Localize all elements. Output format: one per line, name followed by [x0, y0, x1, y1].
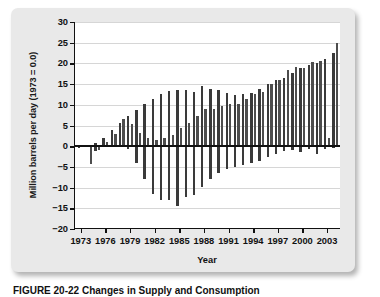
y-axis-tick-label: 0 [63, 141, 68, 151]
x-axis-tick [130, 228, 131, 233]
x-axis-tick [179, 228, 180, 233]
bar [90, 146, 92, 163]
x-axis-tick-label: 1988 [194, 236, 215, 246]
bar [160, 94, 162, 147]
x-axis-tick [105, 228, 106, 233]
x-axis-tick [229, 228, 230, 233]
gridline [75, 22, 340, 23]
bar [131, 124, 133, 146]
plot-area: 302520151050−5−10−15−20 1973197619791982… [74, 22, 340, 229]
bar [176, 146, 178, 206]
x-axis-tick [155, 228, 156, 233]
bar [250, 93, 252, 146]
bar [209, 89, 211, 147]
x-axis-tick-label: 1976 [95, 236, 116, 246]
y-axis-tick [70, 188, 75, 189]
bar [180, 128, 182, 147]
zero-baseline [75, 145, 340, 147]
y-axis-tick-label: −10 [52, 183, 68, 193]
bar [336, 43, 338, 147]
x-axis-tick [278, 228, 279, 233]
bar [303, 68, 305, 146]
bar [201, 86, 203, 146]
gridline [75, 208, 340, 209]
bar [319, 61, 321, 146]
bar [237, 104, 239, 146]
bar [201, 146, 203, 187]
bar [111, 130, 113, 146]
y-axis-tick-label: 15 [58, 79, 68, 89]
bar [234, 146, 236, 167]
bar [262, 92, 264, 146]
bar [168, 146, 170, 200]
bar [295, 67, 297, 146]
bar [324, 59, 326, 146]
gridline [75, 43, 340, 44]
y-axis-tick [70, 167, 75, 168]
bar [217, 146, 219, 173]
bar [267, 146, 269, 157]
y-axis-tick-label: 5 [63, 121, 68, 131]
x-axis-tick [253, 228, 254, 233]
bar [229, 104, 231, 146]
y-axis-tick-label: 25 [58, 38, 68, 48]
bar [204, 109, 206, 147]
chart-container: Million barrels per day (1973 = 0.0) 302… [11, 8, 355, 272]
bar [245, 99, 247, 146]
bar [258, 146, 260, 160]
x-axis-tick-label: 1982 [144, 236, 165, 246]
y-axis-tick-label: −15 [52, 203, 68, 213]
bar [185, 146, 187, 197]
bar [311, 62, 313, 146]
bar [135, 110, 137, 146]
y-axis-tick [70, 229, 75, 230]
bar [254, 94, 256, 146]
bar [308, 65, 310, 146]
bar [127, 116, 129, 147]
x-axis-tick-label: 1991 [218, 236, 239, 246]
figure-caption: FIGURE 20-22 Changes in Supply and Consu… [13, 285, 369, 296]
bar [139, 133, 141, 147]
bar [258, 89, 260, 147]
bar [221, 106, 223, 146]
bar [242, 146, 244, 165]
x-axis-title: Year [74, 255, 340, 265]
bar [143, 104, 145, 146]
gridline [75, 188, 340, 189]
bar [275, 146, 277, 153]
y-axis-tick [70, 43, 75, 44]
bar [168, 91, 170, 146]
x-axis-tick-label: 1997 [267, 236, 288, 246]
y-axis-tick [70, 84, 75, 85]
bar [209, 146, 211, 179]
bar [193, 146, 195, 194]
bar [267, 84, 269, 146]
gridline [75, 63, 340, 64]
bar [291, 73, 293, 146]
bar [193, 92, 195, 146]
y-axis-tick [70, 208, 75, 209]
bar [217, 90, 219, 146]
bar [234, 95, 236, 146]
bar [250, 146, 252, 163]
bar [143, 146, 145, 179]
bar [119, 123, 121, 146]
y-axis-tick [70, 22, 75, 23]
y-axis-tick [70, 105, 75, 106]
y-axis-tick [70, 126, 75, 127]
bar [122, 119, 124, 146]
bar [152, 99, 154, 146]
x-axis-tick [302, 228, 303, 233]
bar [160, 146, 162, 199]
y-axis-tick-label: 30 [58, 17, 68, 27]
bar [242, 94, 244, 146]
y-axis-tick [70, 63, 75, 64]
bar [188, 123, 190, 146]
bar [213, 109, 215, 146]
x-axis-tick-label: 2003 [317, 236, 338, 246]
bar [226, 146, 228, 169]
bar [270, 84, 272, 146]
x-axis-tick-label: 1979 [120, 236, 141, 246]
bar [278, 80, 280, 146]
y-axis-tick-label: −20 [52, 224, 68, 234]
